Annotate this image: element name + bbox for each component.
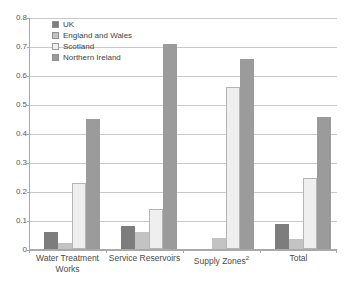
bar[interactable] xyxy=(58,243,72,249)
x-tick-mark xyxy=(336,250,337,253)
x-axis-label: Service Reservoirs xyxy=(106,253,183,264)
x-tick-mark xyxy=(260,250,261,253)
legend-item-scotland[interactable]: Scotland xyxy=(52,41,162,52)
y-tick-label: 0.5 xyxy=(1,101,27,109)
y-axis: 0.80.70.60.50.40.30.20.10 xyxy=(0,18,27,250)
bar[interactable] xyxy=(163,44,177,249)
x-axis-label: Total xyxy=(260,253,337,264)
bar-group xyxy=(184,18,261,249)
x-axis-label-line: Supply Zones2 xyxy=(183,253,260,267)
legend-item-england-and-wales[interactable]: England and Wales xyxy=(52,30,162,41)
legend-swatch-uk xyxy=(52,21,59,28)
y-tick-label: 0 xyxy=(1,246,27,254)
bar[interactable] xyxy=(86,119,100,249)
bar-group xyxy=(261,18,338,249)
x-axis-labels: Water TreatmentWorksService ReservoirsSu… xyxy=(29,253,337,291)
x-tick-mark xyxy=(183,250,184,253)
bar[interactable] xyxy=(240,59,254,249)
x-axis-label-line: Service Reservoirs xyxy=(106,253,183,264)
legend-label-northern-ireland: Northern Ireland xyxy=(63,53,121,62)
bar[interactable] xyxy=(44,232,58,249)
bar[interactable] xyxy=(226,87,240,249)
chart-legend: UK England and Wales Scotland Northern I… xyxy=(52,19,162,63)
y-tick-label: 0.1 xyxy=(1,217,27,225)
x-axis-label: Supply Zones2 xyxy=(183,253,260,267)
bar[interactable] xyxy=(303,178,317,249)
x-tick-mark xyxy=(106,250,107,253)
bar[interactable] xyxy=(317,117,331,249)
bar[interactable] xyxy=(149,209,163,249)
legend-label-england-and-wales: England and Wales xyxy=(63,31,132,40)
bar[interactable] xyxy=(121,226,135,249)
x-axis-label-line: Works xyxy=(29,264,106,275)
y-tick-label: 0.7 xyxy=(1,43,27,51)
legend-item-uk[interactable]: UK xyxy=(52,19,162,30)
y-tick-label: 0.3 xyxy=(1,159,27,167)
y-tick-label: 0.6 xyxy=(1,72,27,80)
x-axis-label-line: Water Treatment xyxy=(29,253,106,264)
y-tick-label: 0.4 xyxy=(1,130,27,138)
legend-swatch-northern-ireland xyxy=(52,54,59,61)
bar[interactable] xyxy=(135,232,149,249)
bar[interactable] xyxy=(289,239,303,249)
bar[interactable] xyxy=(212,238,226,249)
bar-chart: 0.80.70.60.50.40.30.20.10 Water Treatmen… xyxy=(0,0,347,291)
x-axis-label-line: Total xyxy=(260,253,337,264)
x-tick-mark xyxy=(29,250,30,253)
legend-swatch-scotland xyxy=(52,43,59,50)
x-axis-label-superscript: 2 xyxy=(246,255,249,261)
x-axis-label: Water TreatmentWorks xyxy=(29,253,106,275)
y-tick-label: 0.8 xyxy=(1,14,27,22)
legend-item-northern-ireland[interactable]: Northern Ireland xyxy=(52,52,162,63)
legend-label-scotland: Scotland xyxy=(63,42,94,51)
legend-label-uk: UK xyxy=(63,20,74,29)
legend-swatch-england-and-wales xyxy=(52,32,59,39)
bar[interactable] xyxy=(275,224,289,249)
y-tick-label: 0.2 xyxy=(1,188,27,196)
bar[interactable] xyxy=(72,183,86,249)
